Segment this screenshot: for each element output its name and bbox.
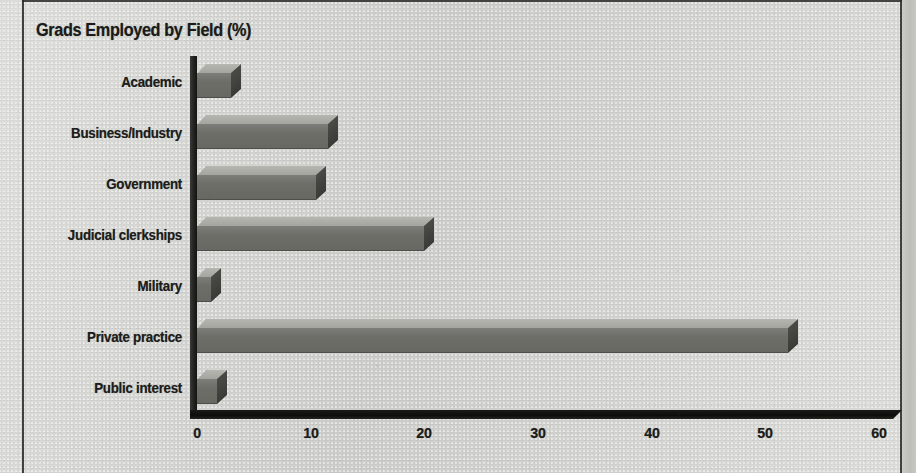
chart-title: Grads Employed by Field (%) xyxy=(36,20,251,41)
bar-row: Private practice xyxy=(22,311,900,362)
bar-front-face xyxy=(197,175,316,200)
bar-row: Public interest xyxy=(22,362,900,413)
x-axis-line xyxy=(190,410,902,419)
bar-chart: Grads Employed by Field (%) AcademicBusi… xyxy=(22,2,900,473)
x-tick-label: 50 xyxy=(758,424,773,442)
category-label: Academic xyxy=(35,56,182,107)
category-label: Business/Industry xyxy=(35,107,182,158)
bar-row: Government xyxy=(22,158,900,209)
bar-front-face xyxy=(197,328,788,353)
x-tick-label: 0 xyxy=(193,424,201,442)
category-label: Public interest xyxy=(35,362,182,413)
bar-front-face xyxy=(197,277,211,302)
bar-front-face xyxy=(197,124,328,149)
bar xyxy=(197,115,328,148)
bar-row: Academic xyxy=(22,56,900,107)
category-label: Government xyxy=(35,158,182,209)
bar-rows: AcademicBusiness/IndustryGovernmentJudic… xyxy=(22,52,900,410)
bar-row: Business/Industry xyxy=(22,107,900,158)
bar xyxy=(197,268,211,301)
y-axis-line xyxy=(190,56,197,414)
category-label: Private practice xyxy=(35,311,182,362)
bar-front-face xyxy=(197,379,217,404)
bar xyxy=(197,217,424,250)
bar xyxy=(197,166,316,199)
x-tick-label: 30 xyxy=(530,424,545,442)
x-tick-label: 60 xyxy=(871,424,886,442)
bar-front-face xyxy=(197,73,231,98)
page-edge-strip xyxy=(902,0,916,473)
category-label: Military xyxy=(35,260,182,311)
bar-row: Judicial clerkships xyxy=(22,209,900,260)
x-tick-label: 40 xyxy=(644,424,659,442)
bar xyxy=(197,64,231,97)
x-tick-label: 20 xyxy=(417,424,432,442)
category-label: Judicial clerkships xyxy=(35,209,182,260)
x-tick-label: 10 xyxy=(303,424,318,442)
bar xyxy=(197,370,217,403)
bar xyxy=(197,319,788,352)
x-axis-tick-labels: 0102030405060 xyxy=(22,424,900,454)
frame-rule-right xyxy=(900,0,902,473)
plot-area: AcademicBusiness/IndustryGovernmentJudic… xyxy=(22,52,900,422)
bar-front-face xyxy=(197,226,424,251)
bar-row: Military xyxy=(22,260,900,311)
